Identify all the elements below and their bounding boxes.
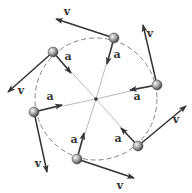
acceleration-label: a — [64, 50, 71, 63]
center-point — [94, 97, 98, 101]
circular-motion-diagram: vavavavavava — [0, 0, 192, 193]
ball — [29, 107, 39, 117]
acceleration-label: a — [70, 133, 77, 146]
velocity-label: v — [146, 27, 154, 40]
acceleration-label: a — [46, 90, 53, 103]
ball — [152, 80, 162, 90]
particle-upper-left: va — [8, 47, 72, 97]
velocity-label: v — [17, 84, 25, 97]
center-dot — [94, 97, 98, 101]
ball — [133, 141, 143, 151]
velocity-label: v — [63, 5, 71, 18]
velocity-label: v — [172, 113, 180, 126]
velocity-label: v — [34, 157, 42, 170]
acceleration-label: a — [114, 132, 121, 145]
ball — [48, 47, 58, 57]
ball — [109, 33, 119, 43]
particle-lower-right: va — [114, 106, 186, 151]
acceleration-label: a — [133, 90, 140, 103]
velocity-arrow-icon — [138, 106, 186, 146]
velocity-arrow-icon — [56, 19, 114, 38]
ball — [72, 154, 82, 164]
particle-bottom: va — [70, 133, 134, 192]
particle-left: va — [29, 90, 62, 172]
velocity-arrow-icon — [77, 159, 134, 178]
velocity-arrow-icon — [8, 52, 53, 92]
acceleration-label: a — [113, 48, 120, 61]
velocity-label: v — [116, 179, 124, 192]
